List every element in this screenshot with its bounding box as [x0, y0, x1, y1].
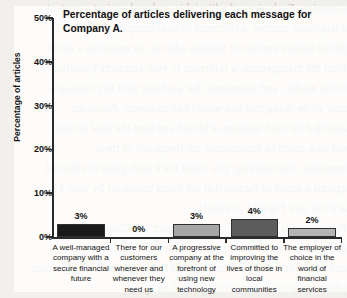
y-tick-mark — [46, 236, 53, 238]
bar-value-label: 3% — [52, 211, 110, 221]
x-tick-mark — [110, 237, 111, 243]
y-tick-mark — [46, 192, 53, 194]
x-axis-category-labels: A well-managed company with a secure fin… — [52, 243, 341, 298]
scanned-page: campaign. Each piece of editorial is ana… — [0, 0, 347, 298]
y-axis-ticks: 0%10%20%30%40%50% — [0, 0, 52, 238]
y-axis-line — [52, 18, 54, 238]
bar-slot: 3% — [168, 18, 226, 237]
bar-slot: 3% — [52, 18, 110, 237]
x-category-label: Committed to improving the lives of thos… — [225, 243, 283, 295]
y-tick-mark — [46, 105, 53, 107]
x-category-label: A well-managed company with a secure fin… — [52, 243, 110, 285]
bar-value-label: 4% — [225, 206, 283, 216]
chart-title: Percentage of articles delivering each m… — [63, 8, 315, 36]
x-tick-mark — [283, 237, 284, 243]
x-category-label: There for our customers wherever and whe… — [110, 243, 168, 295]
bar — [173, 224, 220, 237]
y-axis-title: Percentage of articles — [12, 37, 22, 157]
bar-value-label: 0% — [110, 224, 168, 234]
y-tick-mark — [46, 61, 53, 63]
x-tick-mark — [341, 237, 342, 243]
bar-slot: 0% — [110, 18, 168, 237]
x-category-label: A progressive company at the forefront o… — [168, 243, 226, 295]
bar-slot: 2% — [283, 18, 341, 237]
bar-value-label: 2% — [283, 215, 341, 225]
bar — [288, 228, 335, 237]
bar-slot: 4% — [225, 18, 283, 237]
bar — [231, 219, 278, 237]
x-tick-mark — [168, 237, 169, 243]
bar — [57, 224, 104, 237]
y-tick-mark — [46, 17, 53, 19]
y-tick-mark — [46, 149, 53, 151]
x-tick-mark — [225, 237, 226, 243]
x-category-label: The employer of choice in the world of f… — [283, 243, 341, 295]
bar-value-label: 3% — [168, 211, 226, 221]
bar-series: 3%0%3%4%2% — [52, 18, 341, 237]
x-axis-line — [52, 237, 341, 239]
